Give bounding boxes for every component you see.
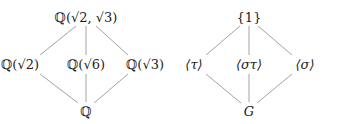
group-node-top: {1}: [237, 11, 262, 24]
group-node-mid: ⟨στ⟩: [236, 58, 262, 71]
edge-top-left: [40, 26, 76, 55]
group-node-right: ⟨σ⟩: [295, 58, 314, 71]
edge-right-bottom: [94, 74, 128, 103]
lattice-edges: [0, 0, 344, 124]
edge-left-bottom: [206, 74, 241, 103]
field-node-bottom: ℚ: [80, 105, 91, 118]
edge-top-right: [96, 26, 128, 55]
field-node-left: ℚ(√2): [1, 58, 39, 71]
field-node-top: ℚ(√2, √3): [55, 11, 118, 24]
field-node-mid: ℚ(√6): [67, 58, 105, 71]
edge-top-right: [258, 26, 292, 55]
edge-left-bottom: [40, 74, 78, 103]
group-node-bottom: G: [244, 105, 254, 118]
group-node-left: ⟨τ⟩: [185, 58, 202, 71]
edge-top-left: [206, 26, 240, 55]
field-node-right: ℚ(√3): [126, 58, 164, 71]
edge-right-bottom: [257, 74, 292, 103]
